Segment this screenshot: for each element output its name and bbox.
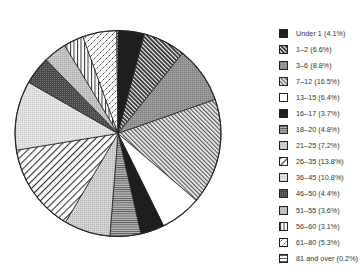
legend-label: 81 and over (0.2%) [296, 254, 358, 263]
legend-item: 16–17 (3.7%) [279, 105, 361, 121]
legend-item: Under 1 (4.1%) [279, 25, 361, 41]
legend-label: 16–17 (3.7%) [296, 109, 340, 118]
legend-label: 46–50 (4.4%) [296, 189, 340, 198]
legend-label: 26–35 (13.8%) [296, 157, 344, 166]
legend-item: 56–60 (3.1%) [279, 218, 361, 234]
legend-swatch-icon [279, 45, 288, 54]
legend-swatch-icon [279, 29, 288, 38]
legend-label: 36–45 (10.8%) [296, 173, 344, 182]
legend-label: Under 1 (4.1%) [296, 29, 345, 38]
legend-swatch-icon [279, 254, 288, 263]
legend-item: 21–25 (7.2%) [279, 138, 361, 154]
legend-item: 46–50 (4.4%) [279, 186, 361, 202]
legend-item: 51–55 (3.6%) [279, 202, 361, 218]
legend-swatch-icon [279, 61, 288, 70]
legend-label: 51–55 (3.6%) [296, 206, 340, 215]
legend-label: 61–80 (5.3%) [296, 238, 340, 247]
legend-item: 36–45 (10.8%) [279, 170, 361, 186]
legend-swatch-icon [279, 222, 288, 231]
legend: Under 1 (4.1%)1–2 (6.6%)3–6 (8.8%)7–12 (… [279, 25, 361, 266]
pie-slices [15, 31, 221, 237]
legend-swatch-icon [279, 238, 288, 247]
legend-item: 18–20 (4.8%) [279, 122, 361, 138]
legend-swatch-icon [279, 206, 288, 215]
legend-item: 1–2 (6.6%) [279, 41, 361, 57]
legend-label: 18–20 (4.8%) [296, 125, 340, 134]
legend-swatch-icon [279, 141, 288, 150]
legend-item: 7–12 (16.5%) [279, 73, 361, 89]
legend-item: 81 and over (0.2%) [279, 250, 361, 266]
legend-swatch-icon [279, 109, 288, 118]
legend-swatch-icon [279, 125, 288, 134]
legend-swatch-icon [279, 77, 288, 86]
legend-label: 3–6 (8.8%) [296, 61, 332, 70]
legend-label: 21–25 (7.2%) [296, 141, 340, 150]
legend-label: 56–60 (3.1%) [296, 222, 340, 231]
legend-item: 61–80 (5.3%) [279, 234, 361, 250]
legend-swatch-icon [279, 93, 288, 102]
legend-label: 13–15 (6.4%) [296, 93, 340, 102]
legend-label: 1–2 (6.6%) [296, 45, 332, 54]
legend-swatch-icon [279, 173, 288, 182]
legend-swatch-icon [279, 189, 288, 198]
legend-item: 26–35 (13.8%) [279, 154, 361, 170]
legend-swatch-icon [279, 157, 288, 166]
legend-label: 7–12 (16.5%) [296, 77, 340, 86]
legend-item: 3–6 (8.8%) [279, 57, 361, 73]
pie-chart [0, 0, 240, 268]
legend-item: 13–15 (6.4%) [279, 89, 361, 105]
